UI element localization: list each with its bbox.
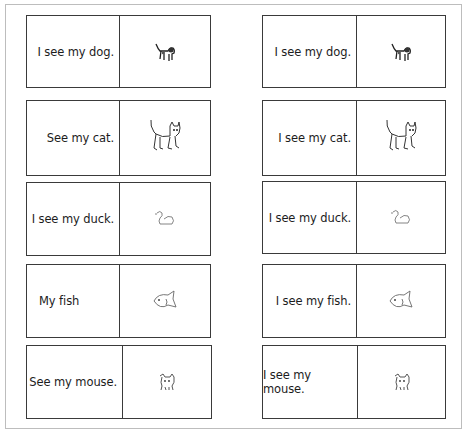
duck-icon bbox=[357, 182, 445, 253]
sentence-card-left-2: See my cat. bbox=[26, 100, 211, 176]
sentence-text: I see my mouse. bbox=[263, 346, 357, 418]
sentence-card-left-4: My fish bbox=[26, 264, 211, 338]
sentence-card-left-3: I see my duck. bbox=[26, 182, 211, 256]
duck-icon bbox=[120, 183, 210, 255]
sentence-card-right-5: I see my mouse. bbox=[262, 345, 446, 419]
cat-icon bbox=[357, 101, 445, 175]
fish-icon bbox=[120, 265, 210, 337]
dog-icon bbox=[120, 16, 210, 87]
sentence-card-left-1: I see my dog. bbox=[26, 15, 211, 88]
sentence-text: I see my dog. bbox=[27, 16, 119, 87]
sentence-text: I see my duck. bbox=[27, 183, 119, 255]
sentence-card-right-1: I see my dog. bbox=[262, 15, 446, 88]
sentence-card-right-2: I see my cat. bbox=[262, 100, 446, 176]
sentence-card-right-4: I see my fish. bbox=[262, 264, 446, 338]
sentence-card-right-3: I see my duck. bbox=[262, 181, 446, 254]
fish-icon bbox=[357, 265, 445, 337]
sentence-text: I see my fish. bbox=[263, 265, 356, 337]
cat-icon bbox=[120, 101, 210, 175]
dog-icon bbox=[357, 16, 445, 87]
sentence-card-left-5: See my mouse. bbox=[26, 345, 212, 419]
sentence-text: I see my duck. bbox=[263, 182, 356, 253]
sentence-text: My fish bbox=[27, 265, 119, 337]
sentence-text: I see my dog. bbox=[263, 16, 356, 87]
mouse-icon bbox=[123, 346, 211, 418]
sentence-text: See my mouse. bbox=[27, 346, 122, 418]
sentence-text: I see my cat. bbox=[263, 101, 356, 175]
sentence-text: See my cat. bbox=[27, 101, 119, 175]
mouse-icon bbox=[358, 346, 445, 418]
